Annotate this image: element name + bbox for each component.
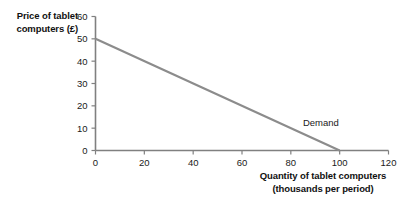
x-axis-title: Quantity of tablet computers (thousands … — [232, 170, 414, 195]
y-tick-label: 0 — [82, 145, 87, 156]
y-tick-label: 50 — [77, 33, 88, 44]
y-tick-label: 20 — [77, 100, 88, 111]
y-tick-label: 60 — [77, 11, 88, 22]
y-tick-label: 30 — [77, 78, 88, 89]
demand-series-label: Demand — [303, 117, 339, 128]
tick-marks-group — [92, 17, 389, 155]
data-series-group — [96, 39, 340, 151]
x-tick-label: 60 — [237, 157, 248, 168]
x-tick-label: 20 — [139, 157, 150, 168]
x-tick-label: 100 — [332, 157, 348, 168]
x-tick-label: 120 — [381, 157, 397, 168]
demand-curve-line — [96, 39, 340, 151]
x-tick-label: 0 — [93, 157, 98, 168]
demand-curve-chart: Price of tablet computers (£) 0102030405… — [0, 0, 417, 205]
x-tick-label: 80 — [286, 157, 297, 168]
tick-labels-group: 0102030405060020406080100120 — [77, 11, 397, 168]
y-tick-label: 40 — [77, 56, 88, 67]
x-tick-label: 40 — [188, 157, 199, 168]
y-tick-label: 10 — [77, 123, 88, 134]
axes-group — [96, 17, 389, 151]
